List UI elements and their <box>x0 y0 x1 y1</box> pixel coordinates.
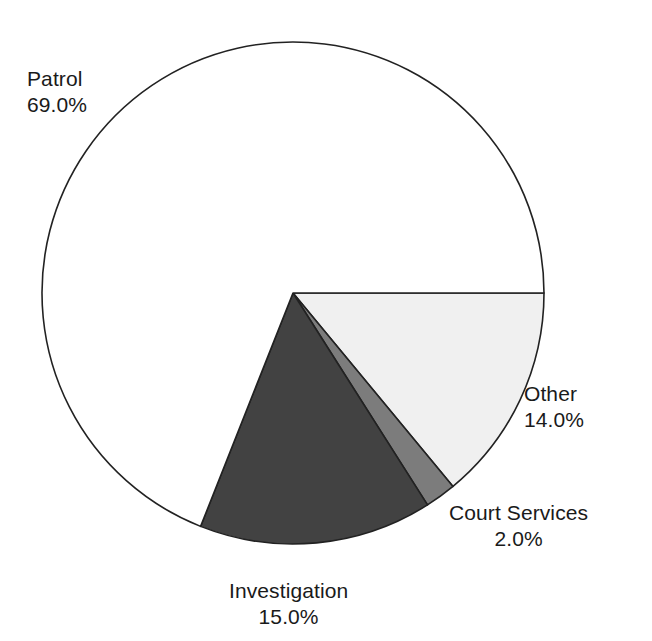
pie-label-investigation: Investigation 15.0% <box>229 578 348 630</box>
pie-label-investigation-name: Investigation <box>229 578 348 604</box>
pie-label-other-name: Other <box>524 381 584 407</box>
pie-label-patrol: Patrol 69.0% <box>27 66 87 118</box>
pie-label-patrol-name: Patrol <box>27 66 87 92</box>
pie-label-court-services-value: 2.0% <box>449 526 588 552</box>
pie-slice-group <box>42 42 544 544</box>
pie-label-other-value: 14.0% <box>524 407 584 433</box>
pie-label-other: Other 14.0% <box>524 381 584 433</box>
pie-label-court-services: Court Services 2.0% <box>449 500 588 552</box>
pie-label-patrol-value: 69.0% <box>27 92 87 118</box>
pie-label-investigation-value: 15.0% <box>229 604 348 630</box>
pie-label-court-services-name: Court Services <box>449 500 588 526</box>
pie-chart-figure: Patrol 69.0% Other 14.0% Court Services … <box>0 0 652 641</box>
